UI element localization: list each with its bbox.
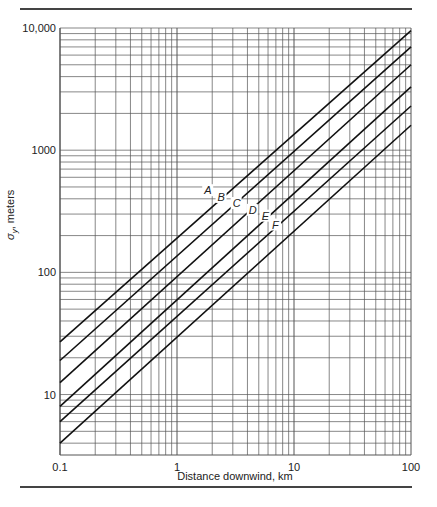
curve-label-D: D <box>249 204 257 216</box>
curve-label-B: B <box>218 191 225 203</box>
y-tick-label: 10,000 <box>22 22 56 34</box>
curve-label-A: A <box>203 184 211 196</box>
curve-D <box>60 87 411 407</box>
curve-A <box>60 31 411 342</box>
curve-label-C: C <box>233 197 241 209</box>
y-axis-label: σy, meters <box>4 190 19 240</box>
y-tick-label: 100 <box>38 266 56 278</box>
curve-C <box>60 65 411 383</box>
curve-label-E: E <box>262 210 270 222</box>
bottom-rule <box>20 486 412 488</box>
curve-E <box>60 106 411 422</box>
log-log-chart: 0.111010010100100010,000ABCDEF <box>0 0 437 507</box>
y-tick-label: 1000 <box>32 144 56 156</box>
y-tick-label: 10 <box>44 389 56 401</box>
x-axis-label: Distance downwind, km <box>0 470 437 482</box>
